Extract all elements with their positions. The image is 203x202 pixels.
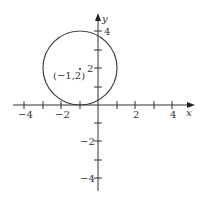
y-axis-label: y [101,13,108,24]
y-tick-label-2: 2 [87,63,93,74]
y-axis-arrow-icon [95,13,101,21]
y-tick-label-neg4: −4 [80,173,95,184]
y-tick-label-neg2: −2 [80,136,95,147]
center-point-label: (−1,2) [53,70,85,81]
coordinate-plane: x y −4 −2 2 4 4 2 −2 −4 (−1,2) [0,0,203,202]
x-tick-label-neg4: −4 [18,109,33,120]
y-tick-label-4: 4 [104,26,110,37]
x-tick-label-neg2: −2 [55,109,70,120]
x-tick-label-2: 2 [133,109,139,120]
x-axis-label: x [186,107,192,118]
x-tick-label-4: 4 [170,109,176,120]
